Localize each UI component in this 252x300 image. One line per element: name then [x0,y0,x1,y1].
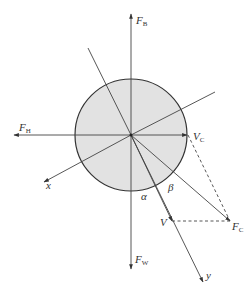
label-v: V [160,216,168,228]
label-alpha: α [141,190,147,202]
label-fw: FW [134,253,149,267]
label-y: y [205,269,211,281]
label-beta: β [167,181,174,193]
center-point [130,134,133,137]
label-fc: FC [231,220,244,234]
dashed-vc-to-fc [188,135,230,221]
label-vc: VC [193,130,205,144]
label-fh: FH [18,121,31,135]
label-x: x [45,179,51,191]
label-fb: FB [135,14,148,28]
force-diagram: FB FH VC x α β V FC FW y [0,0,252,300]
